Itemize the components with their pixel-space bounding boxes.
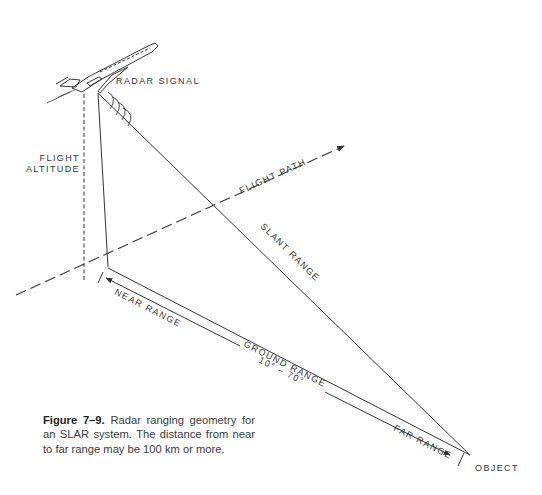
slant-range-label: SLANT RANGE xyxy=(259,221,322,283)
slant-range-line xyxy=(98,93,470,455)
ground-range-label: GROUND RANGE xyxy=(242,339,328,389)
flight-altitude-label-line2: ALTITUDE xyxy=(26,164,80,174)
object-label: OBJECT xyxy=(475,463,519,473)
aircraft-icon xyxy=(47,43,158,103)
near-range-tick xyxy=(98,272,103,283)
figure-caption: Figure 7–9. Radar ranging geometry for a… xyxy=(43,413,255,456)
radar-signal-label: RADAR SIGNAL xyxy=(116,76,200,86)
near-range-arrow xyxy=(106,278,240,346)
far-range-tick xyxy=(458,453,464,466)
flight-altitude-label-line1: FLIGHT xyxy=(40,153,80,163)
near-range-vertical-line xyxy=(98,93,108,267)
flight-path-label: FLIGHT PATH xyxy=(238,157,308,196)
figure-number: Figure 7–9. xyxy=(43,414,105,426)
radar-signal-waves-icon xyxy=(108,92,131,126)
near-range-label: NEAR RANGE xyxy=(113,287,183,329)
